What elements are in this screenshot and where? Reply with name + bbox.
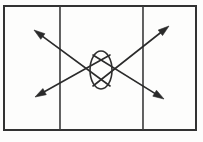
center-ellipse [90,51,112,89]
diagram-canvas [0,0,203,142]
caption-strip [0,133,203,142]
arrow-lower-right-shaft [93,55,159,96]
arrow-lower-right-head [153,90,164,99]
arrow-lower-left-head [35,89,46,97]
figure-root [0,0,203,142]
outer-rectangle [4,6,196,130]
arrow-upper-left-head [34,30,45,39]
